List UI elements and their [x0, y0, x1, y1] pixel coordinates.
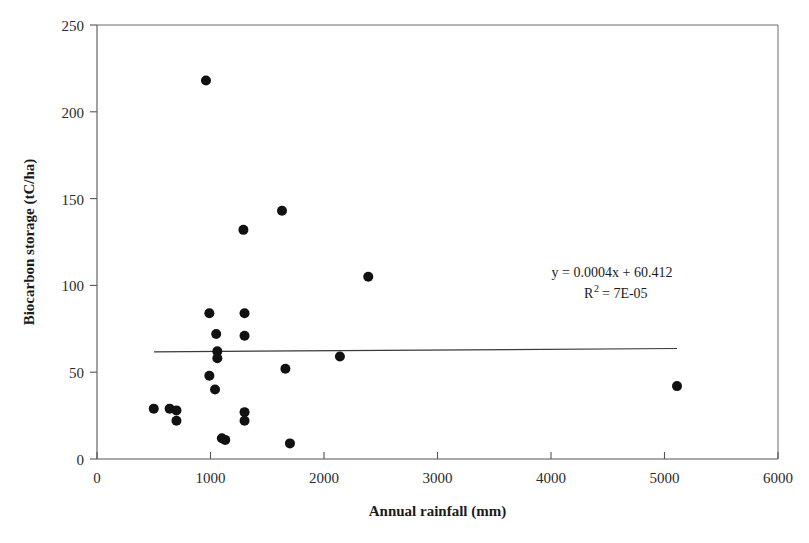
- y-tick-label-50: 50: [69, 365, 84, 381]
- x-axis-tick-labels: 0 1000 2000 3000 4000 5000 6000: [93, 470, 793, 486]
- x-tick-label-3000: 3000: [423, 470, 453, 486]
- data-point: [204, 308, 214, 318]
- data-point: [212, 353, 222, 363]
- trendline-equation-label: y = 0.0004x + 60.412: [552, 265, 673, 280]
- y-axis-ticks: [90, 25, 97, 459]
- data-point: [211, 329, 221, 339]
- y-axis-tick-labels: 250 200 150 100 50 0: [62, 18, 85, 468]
- x-tick-label-4000: 4000: [536, 470, 566, 486]
- y-tick-label-250: 250: [62, 18, 85, 34]
- y-tick-label-100: 100: [62, 278, 85, 294]
- data-point: [201, 76, 211, 86]
- data-point: [240, 416, 250, 426]
- r-squared-label: R: [584, 286, 594, 301]
- x-tick-label-0: 0: [93, 470, 101, 486]
- data-point: [672, 381, 682, 391]
- data-point: [149, 404, 159, 414]
- data-point: [171, 416, 181, 426]
- x-tick-label-2000: 2000: [309, 470, 339, 486]
- x-axis-ticks: [97, 452, 778, 459]
- data-point: [238, 225, 248, 235]
- data-point: [171, 405, 181, 415]
- y-axis-title: Biocarbon storage (tC/ha): [21, 159, 38, 326]
- data-point: [240, 331, 250, 341]
- data-point: [285, 438, 295, 448]
- data-point: [280, 364, 290, 374]
- x-tick-label-5000: 5000: [650, 470, 680, 486]
- scatter-chart-figure: 250 200 150 100 50 0 0 1000 2000 3000 40…: [0, 0, 809, 543]
- x-axis-title: Annual rainfall (mm): [369, 503, 507, 520]
- y-tick-label-200: 200: [62, 105, 85, 121]
- data-point: [363, 272, 373, 282]
- r-squared-label-group: R 2 = 7E-05: [584, 283, 648, 301]
- data-point: [240, 308, 250, 318]
- x-tick-label-1000: 1000: [196, 470, 226, 486]
- data-points-layer: [149, 76, 682, 449]
- data-point: [204, 371, 214, 381]
- data-point: [220, 435, 230, 445]
- y-tick-label-0: 0: [77, 452, 85, 468]
- data-point: [210, 385, 220, 395]
- r-squared-superscript: 2: [594, 283, 599, 294]
- data-point: [240, 407, 250, 417]
- chart-svg: 250 200 150 100 50 0 0 1000 2000 3000 40…: [0, 0, 809, 543]
- trend-line: [154, 349, 677, 352]
- data-point: [277, 206, 287, 216]
- y-tick-label-150: 150: [62, 192, 85, 208]
- data-point: [335, 352, 345, 362]
- r-squared-value: = 7E-05: [602, 286, 648, 301]
- x-tick-label-6000: 6000: [763, 470, 793, 486]
